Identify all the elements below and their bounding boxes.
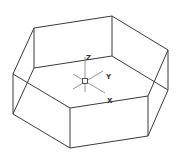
bottom-front-edges	[13, 90, 168, 148]
x-axis-line	[73, 74, 105, 93]
ucs-axis-icon: Z Y X	[73, 54, 113, 105]
y-axis-label: Y	[105, 73, 112, 81]
origin-marker-icon	[83, 79, 88, 84]
y-axis-line	[73, 71, 103, 89]
top-face	[13, 16, 168, 108]
x-axis-label: X	[107, 97, 113, 105]
z-axis-label: Z	[86, 54, 91, 62]
hexagonal-prism-diagram: Z Y X	[0, 0, 179, 158]
